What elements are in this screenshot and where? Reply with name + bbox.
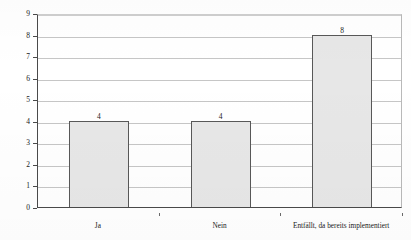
bar-value-label: 4	[79, 112, 119, 121]
bar-value-label: 8	[322, 26, 362, 35]
y-tick-label: 2	[8, 161, 30, 169]
y-tick-mark	[33, 208, 37, 209]
y-tick-label: 0	[8, 204, 30, 212]
x-axis-category-label: Ja	[28, 221, 168, 231]
bar[interactable]	[69, 121, 129, 207]
y-tick-label: 7	[8, 53, 30, 61]
y-tick-label: 1	[8, 182, 30, 190]
x-axis-category-label: Entfällt, da bereits implementiert	[271, 221, 411, 231]
chart-screenshot: Nennungen [N=16] 0123456789 448 JaNeinEn…	[0, 0, 411, 240]
x-tick-mark	[159, 213, 160, 216]
y-tick-label: 5	[8, 96, 30, 104]
bars-layer: 448	[38, 15, 401, 207]
bar[interactable]	[191, 121, 251, 207]
bar[interactable]	[312, 35, 372, 207]
y-tick-label: 9	[8, 10, 30, 18]
x-tick-mark	[402, 213, 403, 216]
x-axis-category-label: Nein	[150, 221, 290, 231]
y-tick-label: 4	[8, 118, 30, 126]
bar-value-label: 4	[201, 112, 241, 121]
x-tick-mark	[280, 213, 281, 216]
x-axis-labels: JaNeinEntfällt, da bereits implementiert	[37, 213, 402, 235]
y-axis-ticks: 0123456789	[0, 14, 37, 208]
plot-area: 448	[37, 14, 402, 208]
y-tick-label: 8	[8, 32, 30, 40]
y-tick-label: 6	[8, 75, 30, 83]
y-tick-label: 3	[8, 139, 30, 147]
